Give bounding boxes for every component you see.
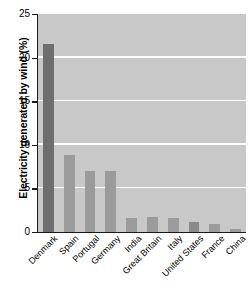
y-tick-label-10: 10 [19,140,30,150]
bar-india [126,218,137,232]
y-tick-label-0: 0 [24,227,30,237]
bar-denmark [43,44,54,232]
y-tick-label-15: 15 [19,96,30,106]
bar-great-britain [147,217,158,232]
y-tick-label-5: 5 [24,183,30,193]
bar-spain [64,155,75,232]
bar-france [209,224,220,232]
bar-portugal [85,171,96,232]
bar-italy [168,218,179,232]
y-axis-title: Electricity generated by wind (%) [17,3,29,233]
y-tick-label-25: 25 [19,9,30,19]
x-axis-tick-labels: DenmarkSpainPortugalGermanyIndiaGreat Br… [37,234,245,301]
bar-germany [105,171,116,232]
x-tick-label-china: China [224,234,247,257]
x-tick-label-denmark: Denmark [28,234,60,266]
bar-united-states [189,222,200,232]
plot-area: 0510152025 [37,14,246,233]
bar-series [38,14,246,232]
y-tick-label-20: 20 [19,53,30,63]
wind-electricity-bar-chart: Electricity generated by wind (%) 051015… [0,0,251,301]
bar-china [230,229,241,232]
